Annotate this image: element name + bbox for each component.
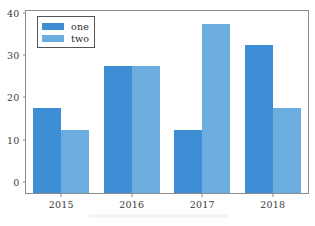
bar-two-2016 bbox=[132, 66, 160, 193]
x-axis-tick: 2017 bbox=[190, 193, 215, 210]
y-axis-tick: 20 bbox=[7, 92, 26, 103]
y-axis-tick-label: 20 bbox=[7, 92, 23, 103]
x-axis-tick: 2018 bbox=[260, 193, 285, 210]
bar-one-2018 bbox=[245, 45, 273, 193]
bar-one-2015 bbox=[33, 108, 61, 193]
y-axis-tick-label: 0 bbox=[13, 177, 22, 188]
legend-item-one: one bbox=[42, 20, 89, 32]
bar-two-2017 bbox=[202, 24, 230, 193]
bar-chart-screenshot: 0102030402015201620172018 one two bbox=[0, 0, 315, 226]
y-axis-tick-label: 40 bbox=[7, 7, 23, 18]
y-axis-tick: 10 bbox=[7, 134, 26, 145]
x-axis-tick: 2016 bbox=[119, 193, 144, 210]
scan-artifact bbox=[88, 214, 228, 218]
x-axis-tick-mark bbox=[202, 193, 203, 197]
bar-two-2018 bbox=[273, 108, 301, 193]
y-axis-tick-mark bbox=[23, 55, 27, 56]
bar-one-2017 bbox=[174, 130, 202, 193]
x-axis-tick-label: 2017 bbox=[190, 199, 215, 210]
x-axis-tick-mark bbox=[272, 193, 273, 197]
plot-frame: 0102030402015201620172018 one two bbox=[25, 10, 309, 194]
x-axis-tick-label: 2018 bbox=[260, 199, 285, 210]
legend-item-two: two bbox=[42, 32, 89, 44]
chart-legend: one two bbox=[37, 16, 95, 48]
x-axis-tick-mark bbox=[61, 193, 62, 197]
bar-two-2015 bbox=[61, 130, 89, 193]
legend-swatch-one bbox=[42, 23, 64, 30]
legend-swatch-two bbox=[42, 35, 64, 42]
y-axis-tick-mark bbox=[23, 182, 27, 183]
y-axis-tick-mark bbox=[23, 12, 27, 13]
x-axis-tick-label: 2015 bbox=[49, 199, 74, 210]
y-axis-tick: 30 bbox=[7, 50, 26, 61]
y-axis-tick-mark bbox=[23, 139, 27, 140]
x-axis-tick-mark bbox=[131, 193, 132, 197]
y-axis-tick: 40 bbox=[7, 7, 26, 18]
y-axis-tick: 0 bbox=[13, 177, 26, 188]
bar-one-2016 bbox=[104, 66, 132, 193]
y-axis-tick-label: 30 bbox=[7, 50, 23, 61]
x-axis-tick: 2015 bbox=[49, 193, 74, 210]
legend-label-two: two bbox=[71, 33, 89, 44]
x-axis-tick-label: 2016 bbox=[119, 199, 144, 210]
y-axis-tick-label: 10 bbox=[7, 134, 23, 145]
legend-label-one: one bbox=[71, 21, 89, 32]
y-axis-tick-mark bbox=[23, 97, 27, 98]
